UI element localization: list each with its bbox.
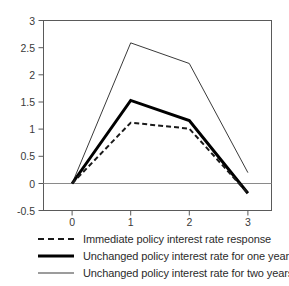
- y-tick-label: 1.5: [20, 96, 35, 108]
- thin-line-key-icon: [36, 266, 76, 280]
- y-tick-label: 2: [29, 69, 35, 81]
- x-tick-label: 1: [128, 216, 134, 228]
- x-tick-labels: 0 1 2 3: [69, 216, 251, 228]
- legend-label: Unchanged policy interest rate for two y…: [83, 267, 289, 279]
- x-tick-label: 3: [245, 216, 251, 228]
- legend-label: Unchanged policy interest rate for one y…: [83, 250, 289, 262]
- legend-item: Unchanged policy interest rate for two y…: [36, 264, 289, 281]
- y-tick-label: 0: [29, 178, 35, 190]
- line-chart-figure: 3 2.5 2 1.5 1 0.5 0 -0.5 0 1 2 3: [0, 0, 289, 286]
- y-axis-ticks: [39, 21, 44, 211]
- legend-item: Immediate policy interest rate response: [36, 230, 289, 247]
- plot-area: 3 2.5 2 1.5 1 0.5 0 -0.5 0 1 2 3: [0, 0, 289, 230]
- x-axis-ticks: [72, 211, 248, 216]
- y-tick-label: 2.5: [20, 42, 35, 54]
- legend-item: Unchanged policy interest rate for one y…: [36, 247, 289, 264]
- bold-line-key-icon: [36, 249, 76, 263]
- y-tick-label: 3: [29, 15, 35, 27]
- y-tick-labels: 3 2.5 2 1.5 1 0.5 0 -0.5: [17, 15, 35, 217]
- legend-label: Immediate policy interest rate response: [83, 233, 271, 245]
- dashed-line-key-icon: [36, 232, 76, 246]
- x-tick-label: 0: [69, 216, 75, 228]
- y-tick-label: -0.5: [17, 205, 35, 217]
- y-tick-label: 0.5: [20, 150, 35, 162]
- chart-legend: Immediate policy interest rate response …: [0, 228, 289, 286]
- x-tick-label: 2: [186, 216, 192, 228]
- y-tick-label: 1: [29, 123, 35, 135]
- chart-canvas: 3 2.5 2 1.5 1 0.5 0 -0.5 0 1 2 3: [0, 0, 289, 230]
